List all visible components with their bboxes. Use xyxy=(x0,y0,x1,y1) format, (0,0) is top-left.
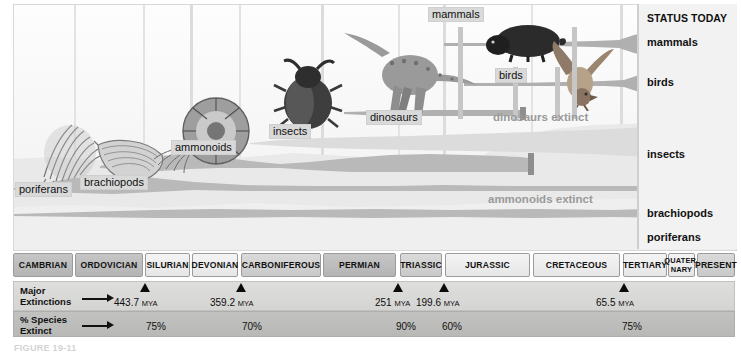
status-today-column: STATUS TODAY mammals birds insects brach… xyxy=(637,4,737,249)
percent-species-label: % Species Extinct xyxy=(20,315,67,336)
chip-dinosaurs: dinosaurs xyxy=(366,110,422,125)
chip-insects: insects xyxy=(269,124,311,139)
major-extinctions-row: Major Extinctions 443.7 MYA 359.2 MYA 25… xyxy=(13,281,735,311)
status-label-insects: insects xyxy=(647,148,685,160)
ammonoid-illustration xyxy=(150,91,254,179)
chip-brachiopods: brachiopods xyxy=(80,175,148,190)
extinction-age-value-1: 443.7 xyxy=(114,297,139,308)
percent-species-extinct-row: % Species Extinct 75% 70% 90% 60% 75% xyxy=(13,311,735,337)
period-triassic[interactable]: TRIASSIC xyxy=(400,253,442,277)
major-extinctions-label: Major Extinctions xyxy=(20,286,71,307)
chip-poriferans: poriferans xyxy=(15,182,72,197)
lineage-poriferans xyxy=(14,203,736,223)
period-carboniferous[interactable]: CARBONIFEROUS xyxy=(241,253,321,277)
period-jurassic[interactable]: JURASSIC xyxy=(445,253,530,277)
figure-caption: FIGURE 19-11 xyxy=(14,343,77,352)
figure-root: dinosaurs extinct ammonoids extinct pori… xyxy=(0,0,741,352)
extinction-marker-5 xyxy=(619,283,629,292)
period-tertiary[interactable]: TERTIARY xyxy=(623,253,667,277)
extinction-age-2: 359.2 MYA xyxy=(210,297,254,308)
status-label-mammals: mammals xyxy=(647,36,698,48)
period-ordovician[interactable]: ORDOVICIAN xyxy=(75,253,143,277)
extinction-marker-2 xyxy=(236,283,246,292)
extinction-age-1: 443.7 MYA xyxy=(114,297,158,308)
extinction-age-unit-1: MYA xyxy=(142,299,158,308)
extinction-marker-3 xyxy=(393,283,403,292)
percent-value-2: 70% xyxy=(242,321,262,332)
extinction-age-unit-2: MYA xyxy=(238,299,254,308)
mammals-chip-post-2 xyxy=(572,27,577,119)
mammals-chip-post xyxy=(458,27,463,119)
extinction-age-5: 65.5 MYA xyxy=(596,297,634,308)
period-permian[interactable]: PERMIAN xyxy=(323,253,396,277)
major-extinctions-arrow xyxy=(82,294,116,303)
chip-birds: birds xyxy=(495,68,527,83)
extinction-age-4: 199.6 MYA xyxy=(416,297,460,308)
extinction-age-value-5: 65.5 xyxy=(596,297,615,308)
period-bar: CAMBRIAN ORDOVICIAN SILURIAN DEVONIAN CA… xyxy=(13,253,735,277)
chip-ammonoids: ammonoids xyxy=(171,140,236,155)
percent-value-5: 75% xyxy=(622,321,642,332)
period-devonian[interactable]: DEVONIAN xyxy=(192,253,238,277)
period-silurian[interactable]: SILURIAN xyxy=(145,253,190,277)
timeline-panel: dinosaurs extinct ammonoids extinct pori… xyxy=(13,4,737,251)
extinction-age-unit-3: MYA xyxy=(394,299,410,308)
percent-value-3: 90% xyxy=(396,321,416,332)
extinction-age-unit-4: MYA xyxy=(444,299,460,308)
chip-mammals: mammals xyxy=(428,7,484,22)
extinction-age-3: 251 MYA xyxy=(375,297,410,308)
extinction-age-value-4: 199.6 xyxy=(416,297,441,308)
status-label-poriferans: poriferans xyxy=(647,231,701,243)
extinction-marker-4 xyxy=(439,283,449,292)
status-today-header: STATUS TODAY xyxy=(647,12,727,24)
status-label-birds: birds xyxy=(647,76,674,88)
period-cambrian[interactable]: CAMBRIAN xyxy=(13,253,73,277)
annotation-ammonoids-extinct: ammonoids extinct xyxy=(488,193,593,205)
period-present[interactable]: PRESENT xyxy=(697,253,735,277)
period-cretaceous[interactable]: CRETACEOUS xyxy=(533,253,620,277)
status-label-brachiopods: brachiopods xyxy=(647,207,713,219)
extinction-age-value-3: 251 xyxy=(375,297,392,308)
percent-value-1: 75% xyxy=(146,321,166,332)
extinction-age-value-2: 359.2 xyxy=(210,297,235,308)
extinction-marker-1 xyxy=(140,283,150,292)
annotation-dinosaurs-extinct: dinosaurs extinct xyxy=(493,111,588,123)
extinction-age-unit-5: MYA xyxy=(618,299,634,308)
bird-illustration xyxy=(536,39,620,111)
period-quaternary[interactable]: QUATER- NARY xyxy=(668,253,695,277)
percent-species-arrow xyxy=(82,321,116,330)
percent-value-4: 60% xyxy=(442,321,462,332)
